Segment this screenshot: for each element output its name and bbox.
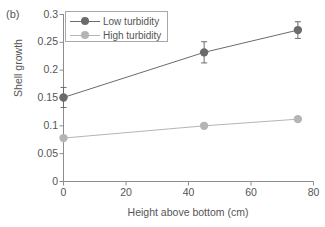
figure-panel: (b) Shell growth Height above bottom (cm… — [0, 0, 325, 227]
data-point-0-2 — [294, 26, 302, 34]
legend-item-high-turbidity: High turbidity — [66, 28, 167, 42]
data-point-1-2 — [294, 115, 302, 123]
legend: Low turbidity High turbidity — [65, 11, 168, 42]
data-point-1-0 — [59, 134, 67, 142]
legend-label-high-turbidity: High turbidity — [103, 30, 161, 41]
legend-label-low-turbidity: Low turbidity — [103, 16, 159, 27]
data-point-1-1 — [200, 122, 208, 130]
legend-marker-icon — [81, 31, 89, 39]
legend-swatch-low-turbidity — [70, 15, 100, 27]
legend-swatch-high-turbidity — [70, 29, 100, 41]
legend-marker-icon — [81, 17, 89, 25]
series-line-1 — [64, 119, 298, 138]
data-point-0-0 — [59, 93, 67, 101]
legend-item-low-turbidity: Low turbidity — [66, 14, 167, 28]
data-point-0-1 — [200, 48, 208, 56]
